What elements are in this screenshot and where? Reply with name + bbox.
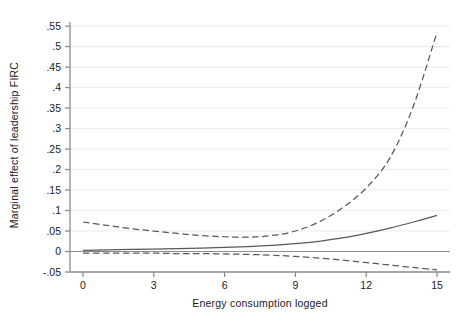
- y-tick-label: .5: [52, 40, 61, 52]
- y-tick-label: .05: [46, 225, 61, 237]
- x-tick-label: 0: [80, 279, 86, 291]
- grid-lines: [70, 26, 450, 272]
- x-tick-label: 15: [431, 279, 443, 291]
- series-line-point-estimate: [83, 215, 437, 250]
- y-axis-tick-labels: -.050.05.1.15.2.25.3.35.4.45.5.55: [43, 20, 61, 278]
- x-axis-tick-labels: 03691215: [80, 279, 443, 291]
- x-tick-label: 3: [151, 279, 157, 291]
- y-tick-label: .35: [46, 102, 61, 114]
- axis-lines: [70, 22, 450, 272]
- y-tick-label: .25: [46, 143, 61, 155]
- y-tick-label: .3: [52, 122, 61, 134]
- y-tick-label: .2: [52, 163, 61, 175]
- y-axis-ticks: [65, 26, 70, 272]
- y-tick-label: .4: [52, 81, 61, 93]
- x-axis-label: Energy consumption logged: [70, 297, 450, 309]
- y-tick-label: .15: [46, 184, 61, 196]
- x-tick-label: 12: [360, 279, 372, 291]
- data-series: [83, 32, 437, 270]
- y-tick-label: -.05: [43, 266, 61, 278]
- series-line-confidence-bound-2: [83, 253, 437, 270]
- y-tick-label: 0: [55, 245, 61, 257]
- plot-canvas: -.050.05.1.15.2.25.3.35.4.45.5.55 036912…: [0, 0, 457, 322]
- y-tick-label: .45: [46, 61, 61, 73]
- series-line-confidence-bound-1: [83, 32, 437, 237]
- x-tick-label: 9: [292, 279, 298, 291]
- y-axis-label: Marginal effect of leadership FIRC: [8, 62, 20, 228]
- chart-figure: Marginal effect of leadership FIRC Energ…: [0, 0, 457, 322]
- x-tick-label: 6: [222, 279, 228, 291]
- y-axis-label-container: Marginal effect of leadership FIRC: [0, 0, 28, 290]
- y-tick-label: .1: [52, 204, 61, 216]
- x-axis-ticks: [83, 272, 437, 277]
- y-tick-label: .55: [46, 20, 61, 32]
